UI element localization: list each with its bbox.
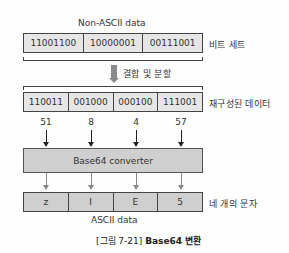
output-char-cell: z [24, 193, 69, 211]
decimal-value: 51 [40, 117, 51, 127]
output-label: 네 개의 문자 [209, 197, 257, 210]
arrow-down-icon [136, 173, 137, 186]
decimal-value: 8 [88, 117, 94, 127]
reconstructed-cell: 000100 [114, 93, 159, 111]
figure-caption: [그림 7-21] Base64 변환 [96, 234, 201, 247]
reconstructed-cell: 001000 [69, 93, 114, 111]
bit-set-cell: 00111001 [143, 34, 202, 52]
combine-split-label: 결합 및 분할 [123, 67, 171, 80]
arrow-down-icon [46, 130, 47, 143]
decimal-value: 4 [133, 117, 139, 127]
output-row: z I E 5 [23, 192, 203, 212]
arrow-down-icon [91, 130, 92, 143]
arrow-down-icon [91, 173, 92, 186]
ascii-data-label: ASCII data [91, 215, 138, 225]
reconstructed-cell: 111001 [158, 93, 202, 111]
bracket-combine [23, 57, 203, 61]
output-char-cell: E [114, 193, 159, 211]
bracket-split [23, 86, 203, 90]
bit-set-row: 11001100 10000001 00111001 [23, 33, 203, 53]
reconstructed-cell: 110011 [24, 93, 69, 111]
bit-set-cell: 10000001 [84, 34, 144, 52]
output-char-cell: I [69, 193, 114, 211]
reconstructed-label: 재구성된 데이터 [209, 97, 270, 110]
converter-label: Base64 converter [73, 156, 153, 166]
arrow-down-icon [136, 130, 137, 143]
down-arrow-icon [111, 65, 117, 78]
base64-converter-box: Base64 converter [23, 148, 203, 173]
caption-text: Base64 변환 [145, 236, 201, 246]
bit-set-cell: 11001100 [24, 34, 84, 52]
decimal-value: 57 [175, 117, 186, 127]
output-char-cell: 5 [158, 193, 202, 211]
arrow-down-icon [181, 130, 182, 143]
arrow-down-icon [181, 173, 182, 186]
bit-set-label: 비트 세트 [209, 38, 245, 51]
caption-prefix: [그림 7-21] [96, 236, 142, 246]
non-ascii-data-label: Non-ASCII data [78, 18, 146, 28]
reconstructed-row: 110011 001000 000100 111001 [23, 92, 203, 112]
arrow-down-icon [46, 173, 47, 186]
